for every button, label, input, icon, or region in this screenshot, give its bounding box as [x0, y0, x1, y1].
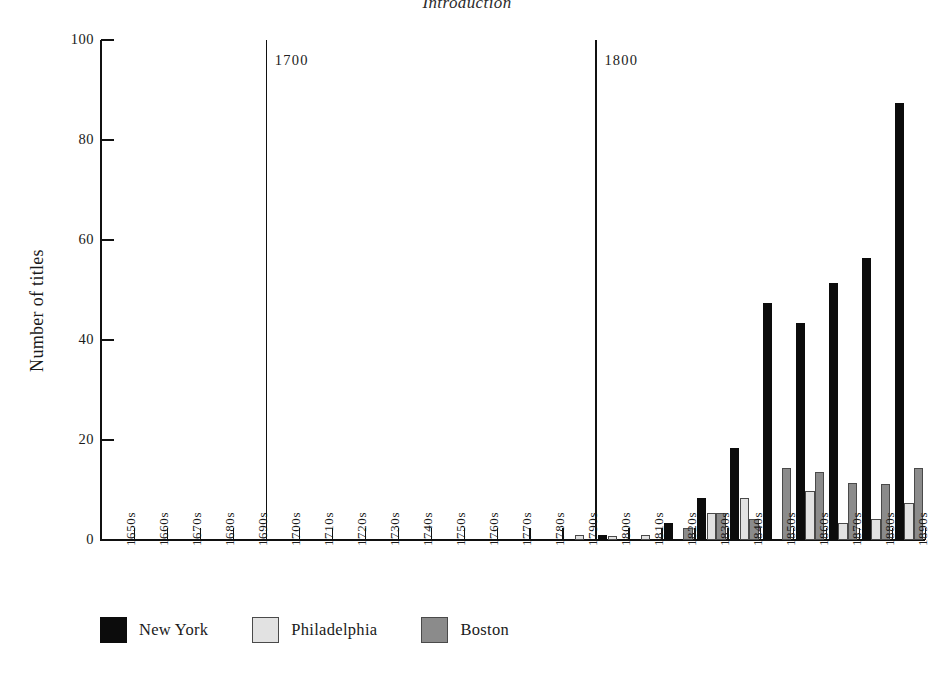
bar-group-1810s: [631, 40, 660, 540]
x-tick-label-1740s: 1740s: [420, 512, 436, 546]
x-tick-label-1700s: 1700s: [288, 512, 304, 546]
chart-legend: New YorkPhiladelphiaBoston: [100, 617, 553, 643]
bar-group-1820s: [664, 40, 693, 540]
bar-group-1710s: [301, 40, 330, 540]
x-tick-label-1690s: 1690s: [255, 512, 271, 546]
legend-swatch-boston-icon: [421, 617, 448, 643]
legend-swatch-new-york-icon: [100, 617, 127, 643]
bar-new-york-1870s: [829, 283, 838, 541]
bar-group-1700s: [268, 40, 297, 540]
y-axis-tick-labels: 020406080100: [44, 0, 94, 680]
legend-item-new-york: New York: [100, 617, 208, 643]
x-tick-label-1760s: 1760s: [486, 512, 502, 546]
bar-philadelphia-1790s: [575, 535, 584, 540]
x-tick-label-1780s: 1780s: [552, 512, 568, 546]
bar-group-1760s: [466, 40, 495, 540]
x-tick-label-1860s: 1860s: [816, 512, 832, 546]
bar-group-1800s: [598, 40, 627, 540]
bar-group-1750s: [433, 40, 462, 540]
bar-group-1890s: [895, 40, 924, 540]
bar-philadelphia-1890s: [904, 503, 913, 541]
bar-group-1780s: [532, 40, 561, 540]
bar-group-1850s: [763, 40, 792, 540]
bar-philadelphia-1870s: [838, 523, 847, 541]
y-tick-label-40: 40: [52, 332, 94, 347]
bar-group-1660s: [136, 40, 165, 540]
bar-group-1650s: [103, 40, 132, 540]
x-tick-label-1830s: 1830s: [717, 512, 733, 546]
y-tick-label-60: 60: [52, 232, 94, 247]
bar-philadelphia-1860s: [805, 491, 814, 540]
bar-philadelphia-1880s: [871, 519, 880, 540]
bar-philadelphia-1830s: [707, 513, 716, 541]
legend-label: Boston: [460, 620, 509, 640]
x-tick-label-1820s: 1820s: [684, 512, 700, 546]
y-axis-title: Number of titles: [27, 231, 48, 391]
bar-philadelphia-1840s: [740, 498, 749, 541]
x-tick-label-1810s: 1810s: [651, 512, 667, 546]
plot-area: [101, 40, 925, 540]
x-tick-label-1800s: 1800s: [618, 512, 634, 546]
bar-new-york-1880s: [862, 258, 871, 541]
x-tick-label-1880s: 1880s: [882, 512, 898, 546]
x-tick-label-1870s: 1870s: [849, 512, 865, 546]
bar-group-1870s: [829, 40, 858, 540]
x-tick-label-1670s: 1670s: [189, 512, 205, 546]
y-tick-label-80: 80: [52, 132, 94, 147]
x-tick-label-1650s: 1650s: [123, 512, 139, 546]
x-tick-label-1790s: 1790s: [585, 512, 601, 546]
x-tick-label-1680s: 1680s: [222, 512, 238, 546]
bar-new-york-1860s: [796, 323, 805, 541]
bar-new-york-1850s: [763, 303, 772, 541]
y-tick-label-0: 0: [52, 532, 94, 547]
x-tick-label-1750s: 1750s: [453, 512, 469, 546]
x-tick-label-1840s: 1840s: [750, 512, 766, 546]
legend-label: New York: [139, 620, 208, 640]
bar-group-1790s: [565, 40, 594, 540]
x-tick-label-1710s: 1710s: [321, 512, 337, 546]
legend-label: Philadelphia: [291, 620, 377, 640]
bar-new-york-1890s: [895, 103, 904, 541]
x-tick-label-1660s: 1660s: [156, 512, 172, 546]
x-tick-label-1850s: 1850s: [783, 512, 799, 546]
bar-group-1840s: [730, 40, 759, 540]
y-tick-label-20: 20: [52, 432, 94, 447]
bar-group-1770s: [499, 40, 528, 540]
bar-group-1720s: [334, 40, 363, 540]
bar-group-1730s: [367, 40, 396, 540]
bar-philadelphia-1800s: [608, 536, 617, 540]
legend-item-philadelphia: Philadelphia: [252, 617, 377, 643]
bar-group-1880s: [862, 40, 891, 540]
bar-group-1740s: [400, 40, 429, 540]
bar-group-1670s: [169, 40, 198, 540]
bar-group-1690s: [235, 40, 264, 540]
y-tick-label-100: 100: [52, 32, 94, 47]
x-tick-label-1770s: 1770s: [519, 512, 535, 546]
x-tick-label-1720s: 1720s: [354, 512, 370, 546]
x-tick-0: [101, 528, 102, 540]
bar-group-1680s: [202, 40, 231, 540]
x-tick-label-1730s: 1730s: [387, 512, 403, 546]
x-tick-label-1890s: 1890s: [915, 512, 931, 546]
bar-group-1860s: [796, 40, 825, 540]
legend-item-boston: Boston: [421, 617, 509, 643]
bar-group-1830s: [697, 40, 726, 540]
bar-chart-figure: 020406080100 Number of titles 17001800 1…: [0, 0, 934, 680]
bar-philadelphia-1810s: [641, 535, 650, 540]
legend-swatch-philadelphia-icon: [252, 617, 279, 643]
